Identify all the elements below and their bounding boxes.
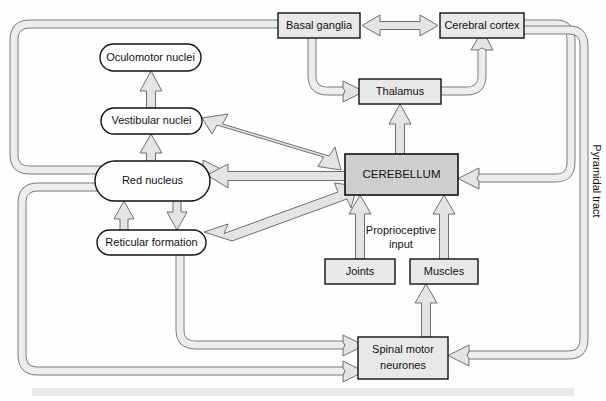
node-basal-ganglia[interactable]: Basal ganglia — [278, 13, 360, 38]
label-proprioceptive-input-line1: Proprioceptive — [366, 224, 436, 236]
arrow-cerebellum-vestibular — [202, 114, 341, 170]
node-reticular-formation[interactable]: Reticular formation — [97, 230, 206, 255]
arrow-cerebellum-to-reticular — [204, 183, 357, 241]
node-oculomotor-nuclei[interactable]: Oculomotor nuclei — [100, 44, 201, 71]
node-vestibular-nuclei[interactable]: Vestibular nuclei — [101, 108, 202, 134]
arrow-muscles-to-cerebellum — [433, 195, 455, 259]
connector-basal-ganglia-to-thalamus — [312, 38, 364, 102]
arrow-red-nucleus-to-reticular — [167, 200, 187, 230]
node-muscles[interactable]: Muscles — [410, 259, 478, 284]
motor-control-diagram: Basal ganglia Cerebral cortex Thalamus C… — [0, 0, 606, 401]
arrow-vestibular-to-oculomotor — [140, 71, 162, 108]
node-thalamus[interactable]: Thalamus — [359, 79, 441, 104]
label-pyramidal-tract: Pyramidal tract — [591, 144, 603, 217]
node-cerebellum-label: CEREBELLUM — [363, 168, 441, 180]
node-joints-label: Joints — [346, 265, 375, 277]
connector-cerebral-cortex-to-spinal-motor-neurones — [448, 30, 584, 366]
node-thalamus-label: Thalamus — [376, 85, 425, 97]
node-joints[interactable]: Joints — [325, 259, 395, 284]
node-reticular-formation-label: Reticular formation — [105, 236, 197, 248]
node-cerebral-cortex[interactable]: Cerebral cortex — [440, 13, 524, 38]
node-spinal-motor-neurones-label-line1: Spinal motor — [372, 343, 434, 355]
node-red-nucleus-label: Red nucleus — [122, 174, 184, 186]
node-muscles-label: Muscles — [424, 265, 465, 277]
connector-red-nucleus-loop-to-spinal-motor-neurones — [22, 187, 364, 382]
arrow-basal-ganglia-cerebral-cortex — [362, 15, 438, 36]
node-cerebellum[interactable]: CEREBELLUM — [345, 154, 458, 195]
node-vestibular-nuclei-label: Vestibular nuclei — [111, 114, 191, 126]
bottom-band — [32, 388, 574, 396]
arrow-reticular-to-red-nucleus — [114, 201, 134, 231]
node-cerebral-cortex-label: Cerebral cortex — [444, 19, 520, 31]
node-basal-ganglia-label: Basal ganglia — [286, 19, 353, 31]
arrow-cerebellum-to-thalamus — [389, 104, 411, 154]
diagram-canvas: Basal ganglia Cerebral cortex Thalamus C… — [0, 0, 606, 401]
node-oculomotor-nuclei-label: Oculomotor nuclei — [106, 51, 195, 63]
label-proprioceptive-input-line2: input — [389, 238, 413, 250]
arrow-spinal-to-muscles — [415, 284, 437, 337]
connector-thalamus-to-cerebral-cortex — [441, 30, 493, 91]
node-spinal-motor-neurones[interactable]: Spinal motor neurones — [358, 337, 448, 379]
node-spinal-motor-neurones-label-line2: neurones — [380, 359, 426, 371]
node-red-nucleus[interactable]: Red nucleus — [95, 161, 210, 201]
